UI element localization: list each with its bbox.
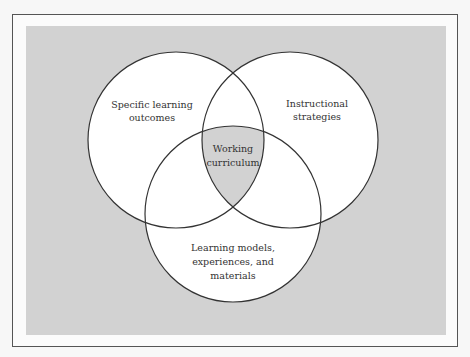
label-center-1: Working [213,143,253,154]
venn-diagram: Specific learning outcomes Instructional… [0,0,470,357]
label-models-3: materials [210,270,255,281]
label-center-2: curriculum [206,157,259,168]
label-models-2: experiences, and [192,256,274,267]
label-strategies-2: strategies [293,111,341,122]
label-models-1: Learning models, [191,242,275,253]
label-strategies-1: Instructional [286,98,348,109]
label-outcomes-2: outcomes [129,112,175,123]
label-outcomes-1: Specific learning [111,99,192,110]
